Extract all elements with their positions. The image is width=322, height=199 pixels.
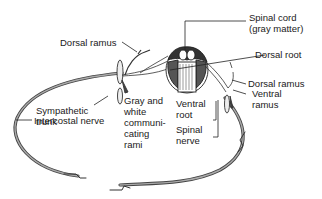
spinal-nerve-fibers-right bbox=[205, 62, 233, 92]
label-intercostal-nerve: Intercostal nerve bbox=[34, 115, 104, 126]
label-spinal-nerve: Spinal nerve bbox=[176, 124, 202, 146]
label-dorsal-root: Dorsal root bbox=[255, 49, 301, 60]
sympathetic-ganglion-right bbox=[225, 95, 234, 113]
label-dorsal-ramus-left: Dorsal ramus bbox=[60, 37, 117, 48]
spinal-nerve-diagram: Spinal cord (gray matter) Dorsal root Do… bbox=[0, 0, 322, 199]
label-ventral-ramus: Ventral ramus bbox=[252, 88, 282, 110]
dorsal-ramus-left-branch bbox=[125, 50, 150, 75]
label-ventral-root: Ventral root bbox=[176, 98, 206, 120]
label-spinal-cord: Spinal cord (gray matter) bbox=[249, 12, 303, 34]
label-gray-white-rami: Gray and white communi- cating rami bbox=[124, 95, 166, 150]
